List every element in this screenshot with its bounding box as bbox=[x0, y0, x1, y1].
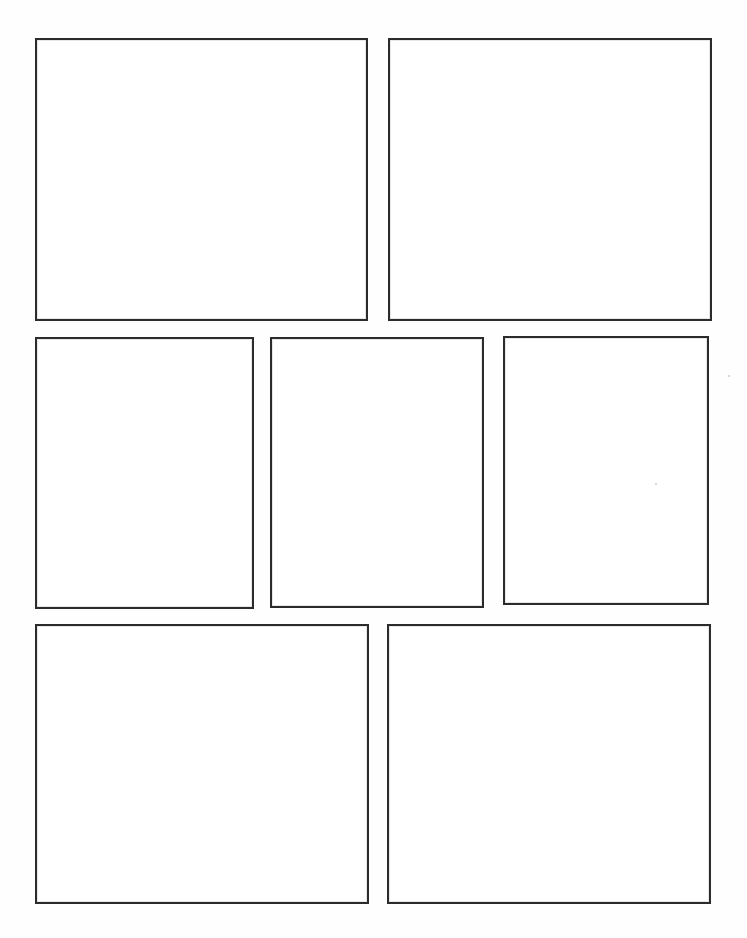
panel-7[interactable] bbox=[387, 624, 711, 904]
panel-6-label bbox=[36, 625, 37, 626]
panel-4[interactable] bbox=[270, 337, 484, 608]
panel-3[interactable] bbox=[35, 337, 254, 609]
panel-7-label bbox=[388, 625, 389, 626]
panel-3-label bbox=[36, 338, 37, 339]
panel-4-label bbox=[271, 338, 272, 339]
page-canvas: Blank Panel Storyboard Template bbox=[0, 0, 747, 938]
panel-2-label bbox=[389, 39, 390, 40]
panel-5[interactable] bbox=[503, 336, 709, 605]
panel-2[interactable] bbox=[388, 38, 712, 321]
panel-6[interactable] bbox=[35, 624, 369, 904]
scan-speck-1 bbox=[728, 375, 730, 377]
panel-5-label bbox=[504, 337, 505, 338]
scan-speck-2 bbox=[655, 483, 657, 485]
panel-1-label bbox=[36, 39, 37, 40]
panel-1[interactable] bbox=[35, 38, 368, 321]
